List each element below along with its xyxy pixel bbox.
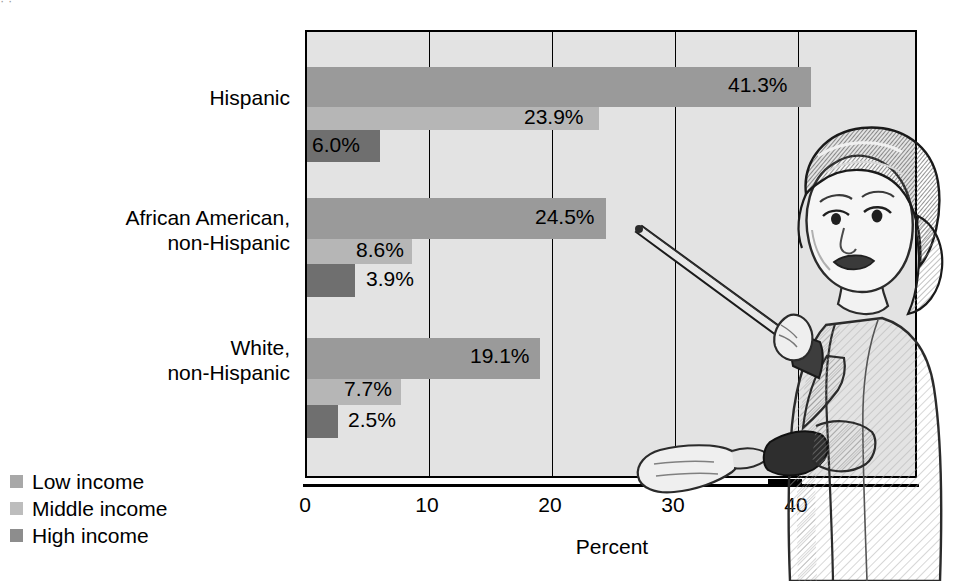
x-axis-tick-label: 20 bbox=[520, 493, 580, 517]
legend-label: Low income bbox=[32, 471, 144, 492]
x-axis-tick-label: 0 bbox=[275, 493, 335, 517]
legend-label: Middle income bbox=[32, 498, 167, 519]
x-axis-line bbox=[303, 484, 919, 487]
bar-value-label: 2.5% bbox=[348, 409, 396, 430]
bar bbox=[307, 264, 355, 297]
category-label: White,non-Hispanic bbox=[167, 336, 290, 386]
bar-value-label: 3.9% bbox=[366, 268, 414, 289]
category-label-line: African American, bbox=[125, 206, 290, 231]
bar-value-label: 41.3% bbox=[728, 74, 788, 95]
legend-swatch-icon bbox=[10, 529, 23, 542]
scan-top-text-sliver: · · bbox=[0, 0, 969, 10]
chart-legend: Low incomeMiddle incomeHigh income bbox=[10, 468, 167, 549]
category-label-line: White, bbox=[167, 336, 290, 361]
bar-value-label: 6.0% bbox=[312, 134, 360, 155]
bar-value-label: 23.9% bbox=[524, 106, 584, 127]
category-label-line: non-Hispanic bbox=[125, 231, 290, 256]
legend-swatch-icon bbox=[10, 475, 23, 488]
bar bbox=[307, 405, 338, 438]
category-label-line: Hispanic bbox=[209, 86, 290, 111]
legend-item: High income bbox=[10, 522, 167, 549]
x-axis-tick-label: 10 bbox=[397, 493, 457, 517]
legend-item: Middle income bbox=[10, 495, 167, 522]
chalkboard-eraser-icon bbox=[768, 479, 802, 486]
bar-value-label: 7.7% bbox=[344, 378, 392, 399]
legend-item: Low income bbox=[10, 468, 167, 495]
bar-value-label: 19.1% bbox=[470, 345, 530, 366]
category-label: Hispanic bbox=[209, 86, 290, 111]
bar-value-label: 24.5% bbox=[535, 206, 595, 227]
x-axis-tick-label: 30 bbox=[643, 493, 703, 517]
category-label: African American,non-Hispanic bbox=[125, 206, 290, 256]
category-label-line: non-Hispanic bbox=[167, 361, 290, 386]
x-axis-tick-label: 40 bbox=[766, 493, 826, 517]
legend-swatch-icon bbox=[10, 502, 23, 515]
bar-value-label: 8.6% bbox=[356, 239, 404, 260]
legend-label: High income bbox=[32, 525, 149, 546]
